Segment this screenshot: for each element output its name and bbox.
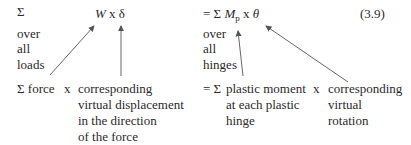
arrow-force-to-W bbox=[50, 26, 94, 75]
arrow-rotation-to-theta bbox=[266, 26, 348, 82]
annotation-arrows bbox=[0, 0, 411, 145]
arrow-moment-to-Mp bbox=[238, 31, 243, 76]
